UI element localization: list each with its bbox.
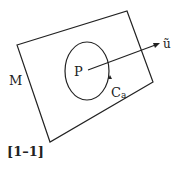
label-curve: Ca xyxy=(111,85,127,100)
curve-loop xyxy=(65,42,109,100)
diagram: M P ũ Ca [1–1] xyxy=(0,0,179,169)
label-point: P xyxy=(74,64,83,79)
label-vector: ũ xyxy=(163,37,171,51)
label-manifold: M xyxy=(9,73,22,88)
figure-number: [1–1] xyxy=(7,144,44,159)
arrowhead-icon xyxy=(153,43,160,48)
manifold-surface xyxy=(17,11,153,142)
